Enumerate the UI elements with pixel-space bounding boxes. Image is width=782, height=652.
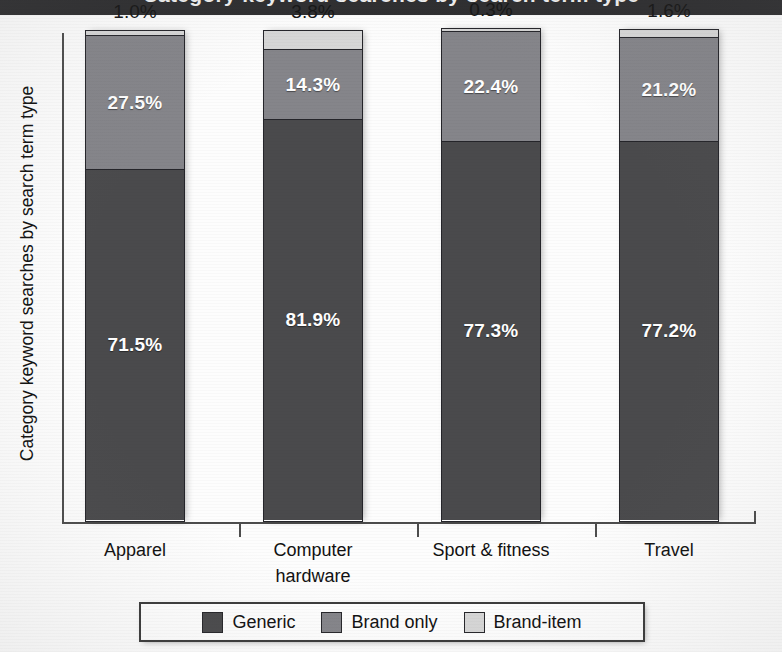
x-axis-tick <box>595 524 597 537</box>
legend-label: Generic <box>232 612 295 633</box>
bar-segment-brand-only[interactable]: 27.5% <box>86 36 184 170</box>
bar-segment-brand-item[interactable]: 3.8% <box>264 31 362 50</box>
x-axis-label-travel: Travel <box>574 537 764 563</box>
bar-segment-value-label: 81.9% <box>286 309 341 331</box>
bar-segment-value-label: 14.3% <box>286 74 341 96</box>
bar-segment-generic[interactable]: 77.3% <box>442 142 540 520</box>
bar-segment-brand-item[interactable]: 1.6% <box>620 30 718 38</box>
bar-segment-generic[interactable]: 81.9% <box>264 120 362 520</box>
x-axis-label-computer-hardware: Computerhardware <box>218 537 408 589</box>
x-axis-label-line2: hardware <box>218 563 408 589</box>
chart-legend: GenericBrand onlyBrand-item <box>139 602 645 642</box>
x-axis-line <box>62 522 756 524</box>
bar-segment-value-label: 21.2% <box>642 79 697 101</box>
bar-segment-value-label: 27.5% <box>108 92 163 114</box>
bar-top-value-label: 1.0% <box>85 1 185 23</box>
bar-segment-brand-only[interactable]: 14.3% <box>264 50 362 120</box>
bar-segment-generic[interactable]: 77.2% <box>620 142 718 520</box>
stacked-bar[interactable]: 1.0%27.5%71.5% <box>85 30 185 522</box>
x-axis-end-cap <box>754 511 756 524</box>
legend-swatch <box>321 612 342 633</box>
stacked-bar[interactable]: 1.6%21.2%77.2% <box>619 29 719 522</box>
bar-segment-brand-only[interactable]: 22.4% <box>442 32 540 142</box>
legend-label: Brand only <box>351 612 437 633</box>
legend-swatch <box>464 612 485 633</box>
stacked-bar[interactable]: 0.3%22.4%77.3% <box>441 28 541 522</box>
bar-segment-value-label: 77.3% <box>464 320 519 342</box>
bar-segment-brand-only[interactable]: 21.2% <box>620 38 718 142</box>
x-axis-label-line1: Computer <box>273 540 352 560</box>
x-axis-label-apparel: Apparel <box>40 537 230 563</box>
stacked-bar[interactable]: 3.8%14.3%81.9% <box>263 30 363 522</box>
x-axis-label-sport-fitness: Sport & fitness <box>396 537 586 563</box>
stacked-bar-chart: Category keyword searches by search term… <box>0 15 782 600</box>
bar-segment-generic[interactable]: 71.5% <box>86 170 184 520</box>
bar-segment-value-label: 22.4% <box>464 76 519 98</box>
x-axis-label-line1: Sport & fitness <box>432 540 549 560</box>
legend-item-generic[interactable]: Generic <box>202 612 295 633</box>
legend-item-brand-item[interactable]: Brand-item <box>464 612 582 633</box>
bar-top-value-label: 3.8% <box>263 1 363 23</box>
x-axis-label-line1: Travel <box>644 540 693 560</box>
legend-item-brand-only[interactable]: Brand only <box>321 612 437 633</box>
bar-segment-value-label: 71.5% <box>108 334 163 356</box>
x-axis-tick <box>417 524 419 537</box>
x-axis-label-line1: Apparel <box>104 540 166 560</box>
y-axis-line <box>62 33 64 524</box>
bar-top-value-label: 0.3% <box>441 0 541 21</box>
legend-swatch <box>202 612 223 633</box>
bar-segment-value-label: 77.2% <box>642 320 697 342</box>
x-axis-tick <box>239 524 241 537</box>
bar-top-value-label: 1.6% <box>619 0 719 22</box>
y-axis-title: Category keyword searches by search term… <box>17 35 38 513</box>
legend-label: Brand-item <box>494 612 582 633</box>
